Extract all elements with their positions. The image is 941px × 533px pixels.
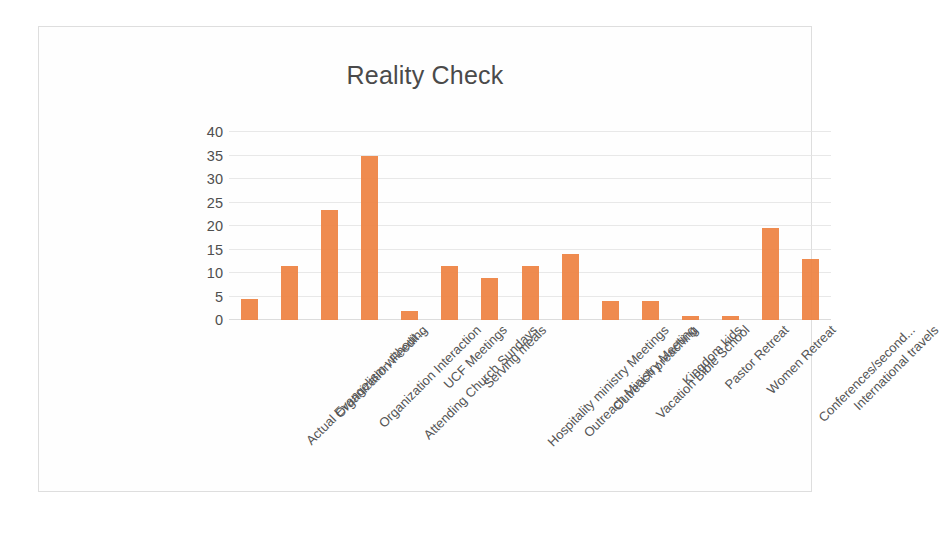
bar bbox=[401, 311, 418, 320]
y-tick-label: 30 bbox=[207, 171, 223, 187]
bar bbox=[682, 316, 699, 320]
bar bbox=[562, 254, 579, 320]
plot-area bbox=[229, 132, 831, 320]
bar bbox=[722, 316, 739, 320]
bar bbox=[522, 266, 539, 320]
bar-series bbox=[229, 132, 831, 320]
bar bbox=[481, 278, 498, 320]
y-tick-label: 15 bbox=[207, 242, 223, 258]
y-tick-label: 0 bbox=[215, 312, 223, 328]
bar bbox=[642, 301, 659, 320]
bar bbox=[241, 299, 258, 320]
y-tick-label: 35 bbox=[207, 148, 223, 164]
y-tick-label: 5 bbox=[215, 289, 223, 305]
y-tick-label: 20 bbox=[207, 218, 223, 234]
y-tick-label: 40 bbox=[207, 124, 223, 140]
x-axis-label: Organization Feeding bbox=[333, 323, 430, 420]
chart-frame: Reality Check 0510152025303540 Actual Ev… bbox=[38, 26, 812, 492]
bar bbox=[361, 156, 378, 321]
bar bbox=[281, 266, 298, 320]
y-tick-label: 25 bbox=[207, 195, 223, 211]
bar bbox=[762, 228, 779, 320]
x-axis-category-labels: Actual Evangelism without...Organization… bbox=[229, 323, 831, 473]
bar bbox=[441, 266, 458, 320]
x-axis-label: Organization Interaction bbox=[377, 323, 484, 430]
bar bbox=[802, 259, 819, 320]
x-axis-label: Hospitality ministry Meetings bbox=[545, 323, 671, 449]
bar bbox=[602, 301, 619, 320]
y-tick-label: 10 bbox=[207, 265, 223, 281]
y-axis-tick-labels: 0510152025303540 bbox=[189, 132, 223, 320]
bar bbox=[321, 210, 338, 320]
chart-title: Reality Check bbox=[39, 61, 811, 90]
